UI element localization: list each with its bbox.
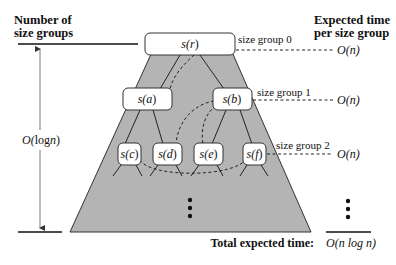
svg-text:s(r): s(r) (181, 37, 198, 51)
size-group-0-row: size group 0 O(n) (236, 33, 360, 57)
svg-text:s(d): s(d) (158, 147, 177, 161)
node-s-d: s(d) (153, 143, 182, 165)
size-group-2-label: size group 2 (276, 139, 330, 151)
svg-text:s(a): s(a) (138, 92, 157, 106)
tree-ellipsis-icon (188, 198, 192, 218)
size-group-2-row: size group 2 O(n) (267, 139, 360, 161)
node-s-c: s(c) (118, 143, 141, 165)
svg-text:s(e): s(e) (200, 147, 218, 161)
size-group-1-label: size group 1 (257, 86, 311, 98)
total-expected-time-value: O(n log n) (326, 236, 376, 250)
svg-text:s(c): s(c) (121, 147, 139, 161)
size-group-2-cost: O(n) (337, 147, 360, 161)
node-s-b: s(b) (213, 88, 252, 110)
node-s-e: s(e) (194, 143, 223, 165)
size-group-1-row: size group 1 O(n) (253, 86, 360, 107)
size-group-0-label: size group 0 (238, 33, 292, 45)
svg-text:s(f): s(f) (246, 147, 262, 161)
node-s-f: s(f) (243, 143, 266, 165)
total-expected-time-label: Total expected time: (210, 236, 314, 250)
recursion-tree-diagram: O(logn) s(r) s(a) s(b) s(c) s (0, 0, 396, 265)
right-ellipsis-icon (346, 199, 350, 219)
log-n-label: O(logn) (22, 133, 60, 147)
svg-text:s(b): s(b) (223, 92, 242, 106)
node-s-a: s(a) (123, 88, 172, 110)
size-group-0-cost: O(n) (337, 43, 360, 57)
tree-trapezoid (70, 52, 311, 232)
node-s-r: s(r) (145, 33, 235, 55)
size-group-1-cost: O(n) (337, 93, 360, 107)
